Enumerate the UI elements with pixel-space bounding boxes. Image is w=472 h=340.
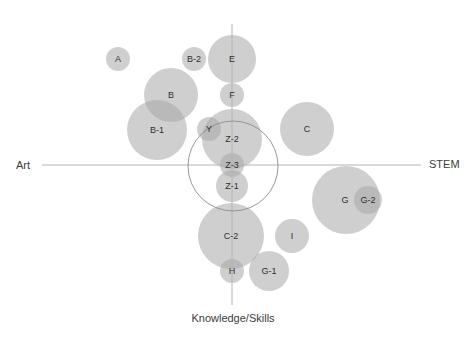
bubble-label-z-1: Z-1 xyxy=(225,181,239,191)
bubble-label-b: B xyxy=(168,90,174,100)
axis-label-stem: STEM xyxy=(429,159,460,170)
bubble-label-i: I xyxy=(291,231,294,241)
bubble-label-a: A xyxy=(115,54,121,64)
bubble-label-b-2: B-2 xyxy=(187,54,201,64)
bubble-label-c-2: C-2 xyxy=(224,231,239,241)
bubble-label-f: F xyxy=(229,90,235,100)
bubble-label-e: E xyxy=(229,54,235,64)
bubble-label-b-1: B-1 xyxy=(150,125,164,135)
bubble-label-h: H xyxy=(229,266,236,276)
bubble-label-z-3: Z-3 xyxy=(225,160,239,170)
bubble-label-g-2: G-2 xyxy=(360,195,375,205)
axis-label-knowledge-skills: Knowledge/Skills xyxy=(191,313,274,324)
bubble-label-z-2: Z-2 xyxy=(225,134,239,144)
bubble-quadrant-diagram: AB-2EFBB-1Z-2YZ-3Z-1CGG-2C-2IHG-1 xyxy=(0,0,472,340)
bubble-label-y: Y xyxy=(206,124,212,134)
bubble-layer xyxy=(106,35,382,291)
bubble-label-c: C xyxy=(304,124,311,134)
bubble-label-g-1: G-1 xyxy=(261,266,276,276)
axis-label-art: Art xyxy=(16,160,30,171)
bubble-label-g: G xyxy=(341,195,348,205)
